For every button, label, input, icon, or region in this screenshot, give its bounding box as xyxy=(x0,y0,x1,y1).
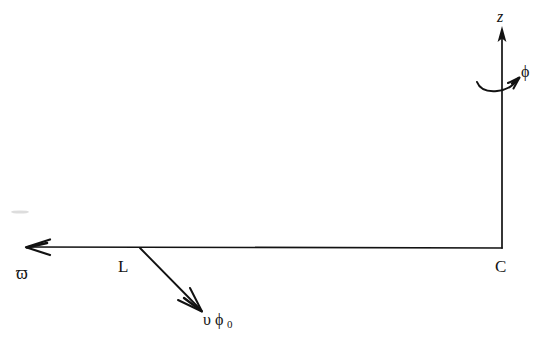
point-l-label: L xyxy=(118,257,128,276)
velocity-symbol-label: υ xyxy=(203,311,211,328)
diagram-background xyxy=(0,0,555,347)
velocity-subscript-zero-label: 0 xyxy=(227,318,233,330)
point-c-label: C xyxy=(495,257,506,276)
radial-axis-line xyxy=(30,247,502,248)
velocity-subscript-phi-label: ϕ xyxy=(215,311,223,329)
phi-rotation-label: ϕ xyxy=(521,63,529,81)
scan-artifact xyxy=(11,210,29,213)
diagram-canvas: z ϕ ϖ L C υ ϕ 0 xyxy=(0,0,555,347)
z-axis-label: z xyxy=(496,8,504,25)
physics-diagram: z ϕ ϖ L C υ ϕ 0 xyxy=(0,0,555,347)
radial-axis-label: ϖ xyxy=(16,263,28,283)
